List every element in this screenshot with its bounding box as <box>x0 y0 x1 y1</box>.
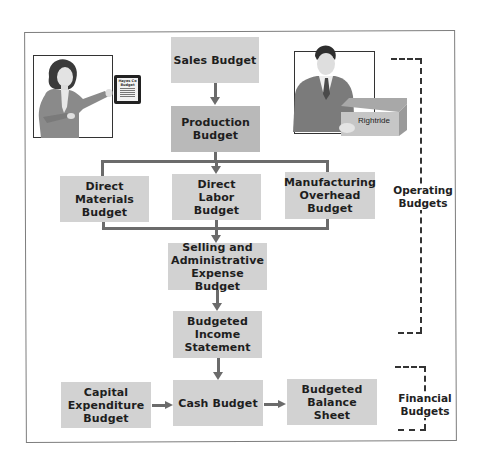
operating-bracket-top <box>391 58 421 60</box>
operating-bracket-bottom <box>398 332 422 334</box>
budgeted-balance-sheet-node: Budgeted Balance Sheet <box>287 379 377 425</box>
production-budget-node: Production Budget <box>171 106 260 152</box>
arrow-right-icon <box>165 401 173 409</box>
connector-selling-income <box>216 290 219 304</box>
arrow-down-icon <box>212 303 222 311</box>
direct-labor-budget-node: Direct Labor Budget <box>172 174 261 220</box>
woman-illustration <box>33 55 113 138</box>
tablet-text: Hayes Co Budget <box>117 79 138 87</box>
connector-capital-cash <box>152 404 166 407</box>
box-label: Rightride <box>349 116 399 125</box>
budgeted-income-statement-node: Budgeted Income Statement <box>173 311 262 358</box>
connector-sales-production <box>214 83 217 98</box>
arrow-right-icon <box>278 400 286 408</box>
cash-budget-node: Cash Budget <box>173 380 263 426</box>
arrow-down-icon <box>213 372 223 380</box>
financial-budgets-label: Financial Budgets <box>396 392 454 418</box>
connector-income-cash <box>217 358 220 373</box>
tablet-icon: Hayes Co Budget <box>114 75 141 104</box>
production-budget-label: Production Budget <box>181 116 250 142</box>
arrow-down-icon <box>211 166 221 174</box>
arrow-down-icon <box>210 97 220 105</box>
budgeted-balance-sheet-label: Budgeted Balance Sheet <box>302 383 363 422</box>
sales-budget-label: Sales Budget <box>174 54 257 67</box>
connector-cash-balance <box>264 403 279 406</box>
selling-admin-expense-budget-node: Selling and Administrative Expense Budge… <box>168 243 267 290</box>
selling-admin-expense-budget-label: Selling and Administrative Expense Budge… <box>168 241 267 293</box>
manufacturing-overhead-budget-label: Manufacturing Overhead Budget <box>284 176 376 215</box>
sales-budget-node: Sales Budget <box>171 37 259 83</box>
direct-materials-budget-node: Direct Materials Budget <box>60 176 149 222</box>
manufacturing-overhead-budget-node: Manufacturing Overhead Budget <box>285 172 375 219</box>
bracket-top-right-leg <box>326 160 329 172</box>
capital-expenditure-budget-node: Capital Expenditure Budget <box>61 382 151 428</box>
bracket-top-left-leg <box>101 160 104 176</box>
connector-bracket-selling-admin <box>215 220 218 236</box>
cash-budget-label: Cash Budget <box>178 397 258 410</box>
direct-labor-budget-label: Direct Labor Budget <box>194 178 239 217</box>
financial-bracket-top <box>395 366 425 368</box>
arrow-down-icon <box>211 235 221 243</box>
budgeted-income-statement-label: Budgeted Income Statement <box>184 315 250 354</box>
operating-budgets-label: Operating Budgets <box>393 184 453 210</box>
direct-materials-budget-label: Direct Materials Budget <box>75 180 134 219</box>
financial-bracket-bottom <box>398 429 426 431</box>
capital-expenditure-budget-label: Capital Expenditure Budget <box>68 386 145 425</box>
